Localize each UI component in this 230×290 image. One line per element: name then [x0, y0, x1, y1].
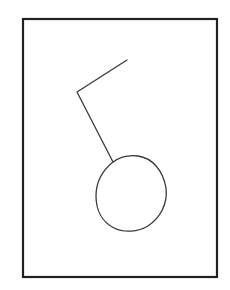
drawing-frame — [23, 19, 217, 277]
note-head-circle — [96, 156, 166, 231]
line-drawing — [0, 0, 230, 290]
drawing-canvas — [0, 0, 230, 290]
note-stem — [77, 60, 127, 162]
